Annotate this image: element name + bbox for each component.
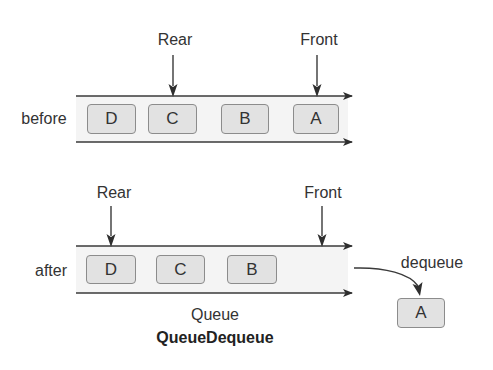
after-front-label: Front	[304, 184, 341, 202]
after-queue-item-b: B	[227, 255, 277, 284]
dequeue-operation-label: dequeue	[401, 254, 463, 272]
before-queue-item-b: B	[221, 104, 269, 134]
after-rear-label: Rear	[97, 184, 132, 202]
before-queue-item-c: C	[148, 104, 197, 134]
diagram-title: QueueDequeue	[156, 329, 273, 347]
after-front-pointer-arrow	[318, 206, 327, 247]
after-rear-pointer-arrow	[107, 206, 116, 247]
before-queue-item-a: A	[293, 104, 339, 134]
before-rear-label: Rear	[158, 31, 193, 49]
before-row-label: before	[21, 110, 66, 128]
after-queue-item-d: D	[86, 255, 136, 284]
before-front-label: Front	[300, 31, 337, 49]
queue-caption: Queue	[191, 306, 239, 324]
after-queue-item-c: C	[156, 255, 205, 284]
after-row-label: after	[35, 262, 67, 280]
queue-dequeue-diagram: Rear Front before D C B A Rear Front aft…	[0, 0, 493, 370]
before-rear-pointer-arrow	[169, 55, 178, 97]
before-queue-item-d: D	[87, 104, 136, 134]
dequeued-item-a: A	[397, 298, 445, 328]
dequeue-curved-arrow	[354, 268, 423, 296]
before-front-pointer-arrow	[313, 55, 322, 97]
